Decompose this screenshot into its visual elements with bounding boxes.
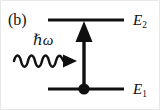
energy-level-label-lower-subscript: 1 <box>142 89 147 99</box>
photon-wave-icon <box>14 55 64 66</box>
energy-level-figure: (b) ℏω E2 E1 <box>0 0 160 110</box>
photon-energy-label: ℏω <box>33 33 53 48</box>
panel-label: (b) <box>8 12 27 28</box>
photon-arrow-head-icon <box>63 55 77 68</box>
energy-level-label-lower-base: E <box>133 81 142 97</box>
energy-level-label-upper: E2 <box>133 13 147 30</box>
energy-level-label-upper-base: E <box>133 12 142 28</box>
electron-dot-icon <box>78 83 89 94</box>
energy-level-label-upper-subscript: 2 <box>142 20 147 30</box>
energy-level-label-lower: E1 <box>133 82 147 99</box>
absorption-arrow-head-icon <box>76 21 93 42</box>
